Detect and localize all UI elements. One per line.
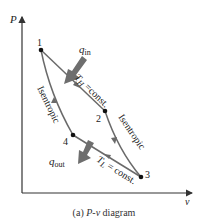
y-axis-label: P: [9, 13, 17, 25]
process-2-3-label: Isentropic: [116, 112, 148, 152]
arrow-2-3-icon: [111, 137, 117, 144]
point-1: [39, 48, 44, 53]
point-3-label: 3: [145, 169, 150, 180]
figure-caption: (a) P-v diagram: [0, 207, 208, 218]
heat-out-label: qout: [49, 155, 66, 169]
point-2-label: 2: [96, 113, 101, 124]
caption-suffix: diagram: [100, 207, 135, 218]
heat-in-label: qin: [79, 43, 91, 57]
point-2: [103, 109, 108, 114]
caption-italic: P-v: [86, 207, 100, 218]
point-1-label: 1: [37, 37, 42, 48]
point-3: [139, 175, 144, 180]
x-axis-label: v: [185, 196, 190, 207]
caption-prefix: (a): [73, 207, 87, 218]
process-1-2-label: TH =const.: [71, 72, 111, 111]
pv-diagram: P v 1 2 3 4 qin qout TH =const. Isentrop…: [0, 0, 208, 223]
point-4-label: 4: [63, 136, 68, 147]
process-4-1-label: Isentropic: [35, 84, 63, 125]
point-4: [71, 133, 76, 138]
